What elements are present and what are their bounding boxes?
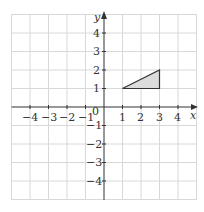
x-tick-label: −3 (41, 111, 57, 124)
y-tick-label: 3 (93, 45, 100, 58)
y-tick-label: −3 (86, 156, 102, 169)
x-tick-label: 3 (156, 111, 163, 124)
x-tick-label: −4 (22, 111, 38, 124)
coordinate-grid: y x 0 −4 −3 −2 −1 1 2 3 4 4 3 2 1 −1 −2 … (0, 0, 204, 212)
y-tick-label: 1 (93, 82, 100, 95)
y-tick-label: −2 (86, 138, 102, 151)
y-tick-label: 4 (93, 27, 100, 40)
x-tick-label: −2 (59, 111, 75, 124)
axes (12, 18, 196, 200)
y-axis-label: y (93, 11, 101, 24)
x-axis-label: x (190, 109, 197, 122)
y-tick-label: 2 (93, 64, 100, 77)
y-tick-label: −4 (86, 175, 102, 188)
x-tick-label: 1 (119, 111, 126, 124)
y-tick-label: −1 (86, 119, 102, 132)
x-tick-label: 2 (137, 111, 144, 124)
x-tick-label: 4 (174, 111, 181, 124)
